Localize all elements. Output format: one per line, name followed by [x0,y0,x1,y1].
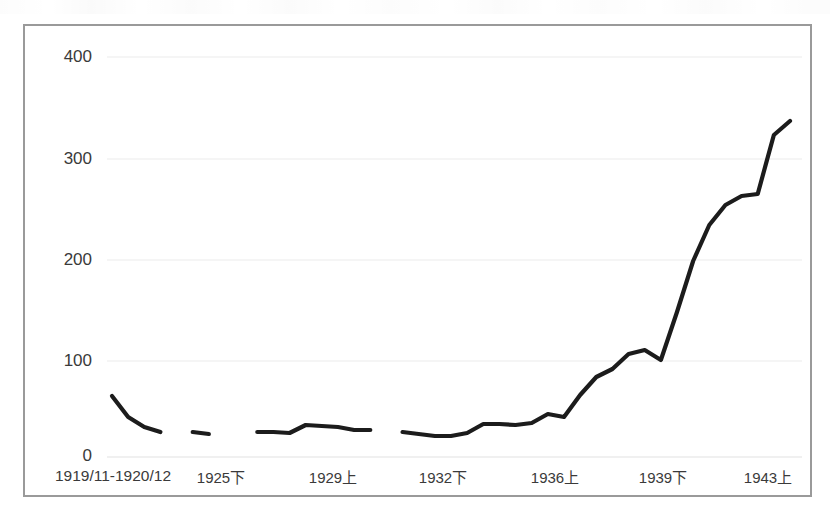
chart-frame: 400 300 200 100 0 1919/11-1920/12 1925下 … [23,24,812,497]
series-line-segment [257,425,370,433]
y-tick-200: 200 [64,250,92,269]
x-tick-6: 1939下 [639,469,687,486]
x-tick-7: 1943上 [744,469,792,486]
series-line-segment [193,432,209,434]
x-tick-2: 1925下 [197,469,245,486]
x-tick-3: 1929上 [309,469,357,486]
x-tick-1: 1919/11-1920/12 [55,467,171,484]
y-tick-400: 400 [64,47,92,66]
x-tick-4: 1932下 [419,469,467,486]
y-tick-0: 0 [83,446,92,465]
x-tick-5: 1936上 [531,469,579,486]
series-line-segment [403,121,790,436]
line-chart: 400 300 200 100 0 1919/11-1920/12 1925下 … [25,26,810,495]
y-tick-100: 100 [64,351,92,370]
series-line-segment [112,396,160,432]
scan-artifact-strip [0,0,830,14]
y-axis-labels: 400 300 200 100 0 [64,47,92,465]
y-tick-300: 300 [64,149,92,168]
gridlines [107,57,802,457]
data-series-layer [112,121,790,436]
x-axis-labels: 1919/11-1920/12 1925下 1929上 1932下 1936上 … [55,467,792,486]
